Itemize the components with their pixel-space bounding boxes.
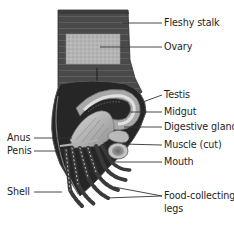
label-muscle-cut: Muscle (cut) bbox=[164, 139, 222, 150]
muscle-shape bbox=[108, 143, 128, 159]
label-fleshy-stalk: Fleshy stalk bbox=[164, 17, 220, 28]
label-penis: Penis bbox=[7, 145, 32, 156]
barnacle-diagram: Fleshy stalk Ovary Testis Midgut Digesti… bbox=[0, 0, 234, 233]
label-anus: Anus bbox=[7, 132, 30, 143]
label-shell: Shell bbox=[7, 186, 30, 197]
label-ovary: Ovary bbox=[164, 41, 192, 52]
label-legs: legs bbox=[164, 203, 183, 214]
label-midgut: Midgut bbox=[164, 106, 196, 117]
label-digestive-gland: Digestive gland bbox=[164, 121, 234, 132]
label-mouth: Mouth bbox=[164, 156, 194, 167]
label-food-collecting: Food-collecting bbox=[164, 190, 234, 201]
label-testis: Testis bbox=[164, 89, 190, 100]
ovary-shape bbox=[66, 34, 120, 64]
